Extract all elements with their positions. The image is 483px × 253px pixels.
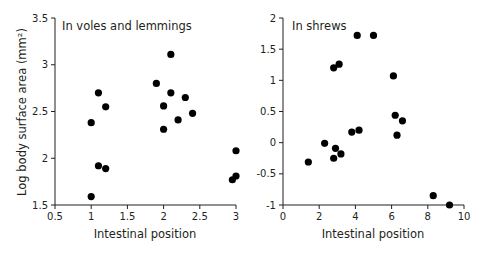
right-data-point [332, 145, 339, 152]
left-data-point [160, 102, 167, 109]
right-x-tick-label: 6 [388, 211, 394, 222]
left-x-axis-title: Intestinal position [94, 227, 197, 241]
right-x-tick-label: 0 [280, 211, 286, 222]
right-x-tick-label: 8 [425, 211, 431, 222]
right-data-point [390, 72, 397, 79]
shrews-panel: -1-0.500.511.520246810 In shrews Intesti… [256, 13, 470, 242]
left-data-point [102, 165, 109, 172]
left-y-axis-title: Log body surface area (mm²) [15, 28, 29, 196]
right-data-point [392, 112, 399, 119]
left-data-point [167, 89, 174, 96]
right-x-tick-label: 2 [316, 211, 322, 222]
left-data-points [88, 51, 240, 200]
right-data-point [355, 127, 362, 134]
left-x-tick-label: 3 [233, 211, 239, 222]
left-x-tick-label: 0.5 [47, 211, 63, 222]
right-data-point [399, 117, 406, 124]
right-axes: -1-0.500.511.520246810 [256, 13, 470, 223]
left-y-tick-label: 3.5 [32, 13, 48, 24]
right-data-point [348, 128, 355, 135]
right-y-tick-label: 0.5 [260, 106, 276, 117]
voles-lemmings-panel: 1.522.533.50.511.522.53 In voles and lem… [15, 13, 240, 242]
right-y-tick-label: -0.5 [256, 168, 276, 179]
left-data-point [182, 94, 189, 101]
right-y-tick-label: 0 [270, 137, 276, 148]
right-data-point [330, 155, 337, 162]
left-data-point [167, 51, 174, 58]
left-data-point [88, 119, 95, 126]
right-x-tick-label: 4 [352, 211, 358, 222]
left-x-tick-label: 2 [160, 211, 166, 222]
left-x-tick-label: 2.5 [192, 211, 208, 222]
left-x-tick-label: 1 [88, 211, 94, 222]
right-data-point [354, 32, 361, 39]
right-data-point [430, 192, 437, 199]
left-panel-title: In voles and lemmings [62, 19, 192, 33]
right-x-axis-title: Intestinal position [322, 227, 425, 241]
right-panel-title: In shrews [292, 19, 347, 33]
right-y-tick-label: -1 [266, 200, 276, 211]
left-data-point [88, 193, 95, 200]
right-data-point [393, 132, 400, 139]
left-data-point [174, 116, 181, 123]
left-data-point [95, 162, 102, 169]
right-data-point [336, 61, 343, 68]
left-data-point [232, 147, 239, 154]
right-y-tick-label: 1.5 [260, 44, 276, 55]
left-axes: 1.522.533.50.511.522.53 [32, 13, 239, 223]
left-y-tick-label: 3 [42, 59, 48, 70]
right-data-point [337, 150, 344, 157]
right-data-point [321, 140, 328, 147]
left-data-point [153, 80, 160, 87]
left-y-tick-label: 1.5 [32, 200, 48, 211]
right-data-points [305, 32, 453, 209]
left-y-tick-label: 2.5 [32, 106, 48, 117]
right-data-point [370, 32, 377, 39]
left-data-point [95, 89, 102, 96]
chart-figure: 1.522.533.50.511.522.53 In voles and lem… [0, 0, 483, 253]
left-data-point [102, 103, 109, 110]
left-data-point [160, 126, 167, 133]
left-data-point [189, 110, 196, 117]
right-y-tick-label: 1 [270, 75, 276, 86]
left-y-tick-label: 2 [42, 153, 48, 164]
right-y-tick-label: 2 [270, 13, 276, 24]
left-x-tick-label: 1.5 [119, 211, 135, 222]
right-x-tick-label: 10 [458, 211, 471, 222]
left-data-point [232, 172, 239, 179]
right-data-point [305, 158, 312, 165]
right-data-point [446, 201, 453, 208]
